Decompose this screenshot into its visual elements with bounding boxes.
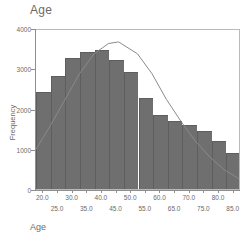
x-tick-mark [130,190,131,193]
x-tick-label: 40.0 [95,194,108,201]
x-tick-label: 20.0 [36,194,49,201]
x-tick-label: 65.0 [168,205,181,212]
x-axis-title: Age [30,222,46,232]
y-tick-label: 1000 [17,146,31,153]
y-tick-label: 2000 [17,106,31,113]
x-tick-mark [42,190,43,193]
x-tick-mark [86,190,87,193]
x-tick-label: 45.0 [109,205,122,212]
x-tick-label: 75.0 [197,205,210,212]
x-tick-label: 55.0 [138,205,151,212]
x-tick-mark [189,190,190,193]
chart-title: Age [30,3,52,17]
normal-curve-overlay [36,30,239,189]
x-tick-mark [233,190,234,193]
y-tick-label: 3000 [17,66,31,73]
x-tick-mark [101,190,102,193]
x-tick-label: 85.0 [226,205,239,212]
y-tick-label: 4000 [17,26,31,33]
normal-curve-path [36,42,239,179]
y-axis-line [35,29,36,190]
x-tick-label: 35.0 [80,205,93,212]
x-axis-line [35,190,240,191]
x-tick-label: 25.0 [51,205,64,212]
plot-area [35,29,240,190]
x-tick-label: 70.0 [182,194,195,201]
x-tick-mark [174,190,175,193]
x-tick-label: 30.0 [65,194,78,201]
x-tick-label: 80.0 [212,194,225,201]
x-tick-mark [218,190,219,193]
y-tick-mark [31,150,35,151]
x-tick-mark [159,190,160,193]
y-tick-mark [31,29,35,30]
x-tick-mark [145,190,146,193]
x-tick-mark [72,190,73,193]
y-tick-mark [31,69,35,70]
x-tick-mark [57,190,58,193]
x-tick-label: 50.0 [124,194,137,201]
x-tick-mark [116,190,117,193]
y-axis-title: Frequency [8,88,17,158]
x-tick-mark [203,190,204,193]
y-tick-mark [31,110,35,111]
histogram-chart: Age 01000200030004000 Frequency 20.030.0… [0,0,246,244]
x-tick-label: 60.0 [153,194,166,201]
